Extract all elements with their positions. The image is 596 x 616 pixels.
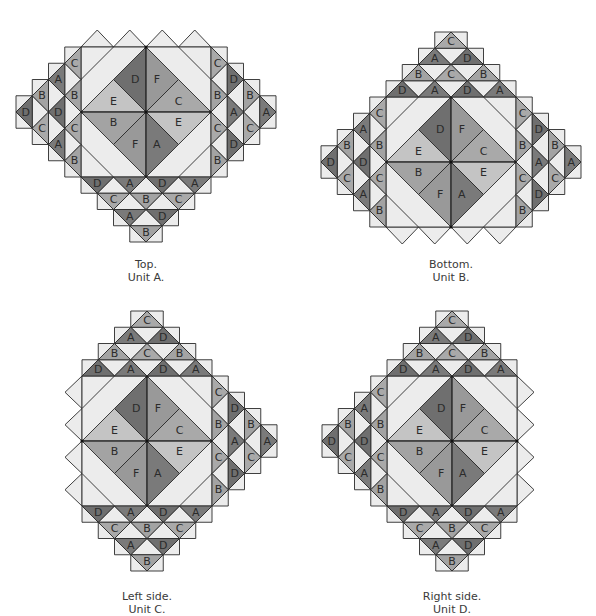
piece-label: B [377,418,385,431]
light-extension [517,409,534,442]
piece-label: A [231,435,239,448]
piece-label: E [481,445,488,458]
piece-label: C [481,522,489,535]
caption-top-unit-a: Top. Unit A. [66,258,226,284]
caption-unit: Unit A. [66,271,226,284]
piece-label: A [54,73,62,86]
seam-point [515,439,518,442]
piece-label: B [111,347,119,360]
piece-label: B [376,204,384,217]
piece-label: C [176,424,184,437]
piece-label: A [432,331,440,344]
seam-point [449,160,452,163]
piece-label: C [176,522,184,535]
piece-label: D [463,52,471,65]
light-extension [146,30,179,47]
piece-label: D [535,123,543,136]
piece-label: B [110,116,118,129]
piece-label: B [376,139,384,152]
piece-label: C [175,193,183,206]
piece-label: C [481,424,489,437]
piece-label: C [110,193,118,206]
quilt-unit-bottom: DFECBEFADADABCBADCCBCBADABCDCBCBDADBCA [321,32,581,244]
piece-label: B [38,89,46,102]
caption-title: Left side. [67,590,227,603]
piece-label: C [377,451,385,464]
piece-label: D [436,123,444,136]
piece-label: B [246,89,254,102]
piece-label: B [480,68,488,81]
caption-title: Top. [66,258,226,271]
quilt-diagram-canvas: DFECBEFADADACBCADBCBCBADABCDCBCBDADBCA D… [0,0,596,616]
piece-label: C [448,347,456,360]
piece-label: E [176,445,183,458]
piece-label: A [127,539,135,552]
piece-label: A [497,506,505,519]
piece-label: D [463,84,471,97]
piece-label: C [480,145,488,158]
piece-label: B [416,347,424,360]
piece-label: A [191,177,199,190]
piece-label: B [176,347,184,360]
light-extension [484,227,517,244]
piece-label: D [535,188,543,201]
piece-label: C [71,57,79,70]
piece-label: D [159,331,167,344]
piece-label: A [230,106,238,119]
piece-label: D [131,73,139,86]
seam-point [144,110,147,113]
piece-label: C [143,314,151,327]
piece-label: C [343,172,351,185]
piece-label: B [111,445,119,458]
piece-label: E [175,116,182,129]
light-extension [386,227,419,244]
piece-label: D [94,506,102,519]
piece-label: A [360,402,368,415]
piece-label: A [262,106,270,119]
piece-label: F [154,73,160,86]
piece-label: D [328,435,336,448]
piece-label: B [448,555,456,568]
caption-unit: Unit C. [67,603,227,616]
piece-label: D [230,138,238,151]
piece-label: D [464,539,472,552]
piece-label: D [437,402,445,415]
piece-label: B [142,226,150,239]
piece-label: F [459,123,465,136]
piece-label: B [143,555,151,568]
piece-label: C [71,122,79,135]
piece-label: B [247,418,255,431]
piece-label: A [127,506,135,519]
caption-left-side-unit-c: Left side. Unit C. [67,590,227,616]
seam-point [80,439,83,442]
piece-label: D [327,156,335,169]
piece-label: C [376,172,384,185]
piece-label: C [215,386,223,399]
caption-title: Bottom. [371,258,531,271]
piece-label: D [158,210,166,223]
piece-label: B [214,154,222,167]
light-extension [65,474,82,507]
piece-label: D [159,363,167,376]
piece-label: A [431,52,439,65]
piece-label: E [110,95,117,108]
piece-label: A [126,210,134,223]
piece-label: B [215,483,223,496]
piece-label: D [464,331,472,344]
piece-label: C [519,107,527,120]
piece-label: C [376,107,384,120]
piece-label: A [496,84,504,97]
caption-right-side-unit-d: Right side. Unit D. [372,590,532,616]
piece-label: B [143,522,151,535]
piece-label: B [551,139,559,152]
piece-label: B [519,139,527,152]
piece-label: D [158,177,166,190]
piece-label: A [432,506,440,519]
light-extension [81,30,114,47]
piece-label: C [214,122,222,135]
piece-label: A [127,363,135,376]
piece-label: D [231,467,239,480]
piece-label: D [464,506,472,519]
piece-label: A [497,363,505,376]
piece-label: A [535,156,543,169]
